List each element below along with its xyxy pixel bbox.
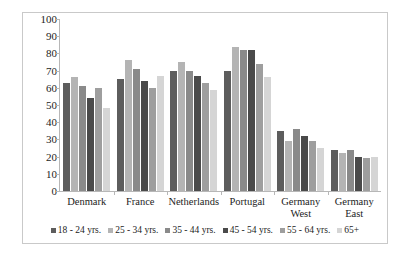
plot-area (60, 19, 381, 191)
bar[interactable] (317, 148, 324, 191)
bar-group (221, 19, 275, 191)
bar[interactable] (347, 150, 354, 191)
legend-item-label: 35 - 44 yrs. (172, 225, 215, 235)
bar[interactable] (248, 50, 255, 191)
bar[interactable] (202, 83, 209, 191)
x-axis-tick-label: Denmark (60, 196, 114, 208)
y-axis-tick-label: 100 (41, 14, 58, 25)
legend-item[interactable]: 55 - 64 yrs. (280, 225, 330, 235)
x-axis-tick-mark (274, 191, 275, 195)
bar[interactable] (63, 83, 70, 191)
bar[interactable] (331, 150, 338, 191)
bar[interactable] (95, 88, 102, 191)
bar[interactable] (232, 47, 239, 191)
bar-group (114, 19, 168, 191)
bar[interactable] (256, 64, 263, 191)
legend-item-label: 65+ (344, 225, 359, 235)
bar[interactable] (87, 98, 94, 191)
y-axis-tick-mark (56, 88, 59, 89)
bar[interactable] (149, 88, 156, 191)
legend-swatch-icon (280, 228, 285, 233)
bar[interactable] (157, 76, 164, 191)
legend-item[interactable]: 25 - 34 yrs. (108, 225, 158, 235)
x-axis-tick-mark (114, 191, 115, 195)
x-axis-tick-label: Germany West (274, 196, 328, 219)
bar[interactable] (363, 158, 370, 191)
y-axis-tick-mark (56, 191, 59, 192)
bar[interactable] (293, 129, 300, 191)
bar[interactable] (371, 157, 378, 191)
bar[interactable] (125, 60, 132, 191)
bar[interactable] (285, 141, 292, 191)
legend-item[interactable]: 65+ (337, 225, 359, 235)
chart-plot-wrapper: 1009080706050403020100 DenmarkFranceNeth… (23, 13, 387, 243)
bar[interactable] (210, 90, 217, 191)
bar[interactable] (103, 108, 110, 191)
bar-group (60, 19, 114, 191)
legend-item-label: 45 - 54 yrs. (230, 225, 273, 235)
y-axis-tick-mark (56, 105, 59, 106)
bar[interactable] (355, 157, 362, 191)
x-axis-labels: DenmarkFranceNetherlandsPortugalGermany … (60, 196, 381, 226)
bar[interactable] (170, 71, 177, 191)
legend-swatch-icon (337, 228, 342, 233)
legend-swatch-icon (51, 228, 56, 233)
chart-legend: 18 - 24 yrs.25 - 34 yrs.35 - 44 yrs.45 -… (23, 225, 387, 235)
y-axis-tick-mark (56, 157, 59, 158)
bar[interactable] (186, 71, 193, 191)
y-axis-tick-mark (56, 122, 59, 123)
bar[interactable] (133, 69, 140, 191)
bar[interactable] (117, 79, 124, 191)
legend-swatch-icon (223, 228, 228, 233)
bar-group (328, 19, 382, 191)
y-axis-tick-mark (56, 71, 59, 72)
legend-item-label: 18 - 24 yrs. (58, 225, 101, 235)
bar[interactable] (240, 50, 247, 191)
bar[interactable] (277, 131, 284, 191)
legend-item[interactable]: 35 - 44 yrs. (165, 225, 215, 235)
bar[interactable] (264, 77, 271, 191)
legend-item-label: 55 - 64 yrs. (287, 225, 330, 235)
bar[interactable] (224, 71, 231, 191)
x-axis-tick-mark (328, 191, 329, 195)
y-axis-tick-mark (56, 19, 59, 20)
legend-swatch-icon (108, 228, 113, 233)
bar[interactable] (141, 81, 148, 191)
y-axis-tick-mark (56, 53, 59, 54)
y-axis: 1009080706050403020100 (27, 19, 57, 191)
bar[interactable] (178, 62, 185, 191)
bar[interactable] (194, 76, 201, 191)
x-axis-tick-label: Netherlands (167, 196, 221, 208)
bar[interactable] (79, 86, 86, 191)
legend-item-label: 25 - 34 yrs. (115, 225, 158, 235)
x-axis-tick-label: Portugal (221, 196, 275, 208)
bar[interactable] (309, 141, 316, 191)
bar[interactable] (339, 153, 346, 191)
y-axis-tick-mark (56, 36, 59, 37)
bar-group (167, 19, 221, 191)
legend-swatch-icon (165, 228, 170, 233)
y-axis-tick-mark (56, 174, 59, 175)
legend-item[interactable]: 45 - 54 yrs. (223, 225, 273, 235)
x-axis-tick-label: France (114, 196, 168, 208)
x-axis-tick-mark (221, 191, 222, 195)
y-axis-tick-mark (56, 139, 59, 140)
bar[interactable] (301, 136, 308, 191)
x-axis-tick-label: Germany East (328, 196, 382, 219)
bar-group (274, 19, 328, 191)
x-axis-tick-mark (167, 191, 168, 195)
legend-item[interactable]: 18 - 24 yrs. (51, 225, 101, 235)
bar[interactable] (71, 77, 78, 191)
chart-frame: 1009080706050403020100 DenmarkFranceNeth… (22, 12, 388, 244)
